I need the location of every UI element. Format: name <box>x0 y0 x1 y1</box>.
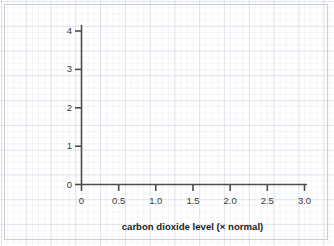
x-tick-label-6: 3.0 <box>298 196 311 206</box>
y-tick-label-1: 1 <box>60 141 72 151</box>
y-tick-label-0: 0 <box>60 180 72 190</box>
x-axis-ticks <box>82 185 305 192</box>
x-tick-label-1: 0.5 <box>112 196 125 206</box>
x-tick-label-4: 2.0 <box>224 196 237 206</box>
y-tick-label-2: 2 <box>60 103 72 113</box>
x-tick-label-5: 2.5 <box>261 196 274 206</box>
y-tick-label-4: 4 <box>60 26 72 36</box>
x-axis-title: carbon dioxide level (× normal) <box>81 221 304 232</box>
y-tick-label-3: 3 <box>60 65 72 75</box>
chart-figure: 0 1 2 3 4 0 0.5 1.0 1.5 2.0 2.5 3.0 carb… <box>0 0 334 246</box>
plot-area: 0 1 2 3 4 0 0.5 1.0 1.5 2.0 2.5 3.0 carb… <box>0 0 334 246</box>
x-tick-label-0: 0 <box>79 196 84 206</box>
y-axis-ticks <box>75 31 82 185</box>
x-tick-label-3: 1.5 <box>186 196 199 206</box>
axes-lines <box>0 0 334 246</box>
x-tick-label-2: 1.0 <box>149 196 162 206</box>
